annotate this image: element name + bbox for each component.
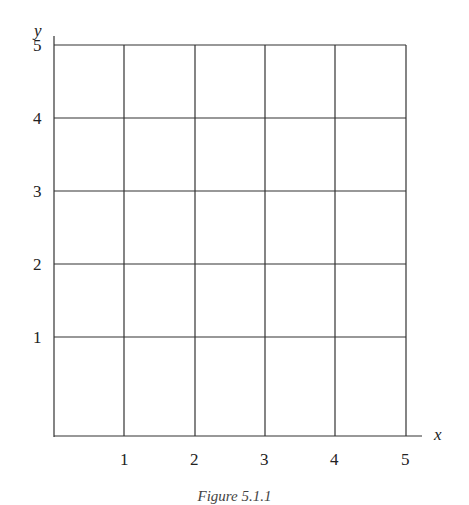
y-tick-5: 5 [33,37,42,54]
x-axis-label: x [434,426,442,443]
figure-caption: Figure 5.1.1 [0,488,469,505]
y-tick-3: 3 [33,183,42,200]
y-tick-4: 4 [33,110,42,127]
y-tick-2: 2 [33,256,42,273]
x-tick-1: 1 [120,451,129,468]
x-tick-5: 5 [401,451,410,468]
x-tick-2: 2 [190,451,199,468]
y-tick-1: 1 [33,329,42,346]
x-tick-4: 4 [330,451,339,468]
x-tick-3: 3 [260,451,269,468]
